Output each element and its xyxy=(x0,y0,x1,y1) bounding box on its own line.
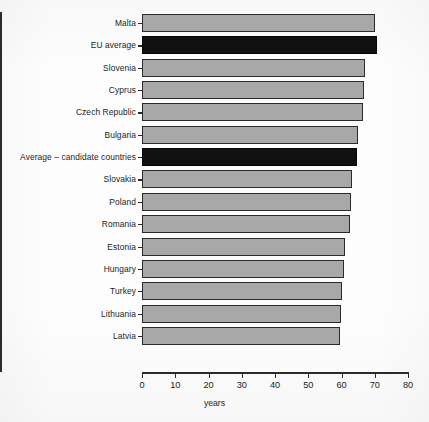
x-axis-tick-label: 10 xyxy=(163,380,187,390)
x-axis-tick-label: 70 xyxy=(363,380,387,390)
x-axis-tick-label: 20 xyxy=(197,380,221,390)
x-axis-tick xyxy=(375,373,376,378)
bar-chart: MaltaEU averageSloveniaCyprusCzech Repub… xyxy=(0,0,429,422)
x-axis-ticks-layer: 01020304050607080 xyxy=(0,0,429,422)
x-axis-tick xyxy=(408,373,409,378)
x-axis-tick-label: 50 xyxy=(296,380,320,390)
x-axis-tick xyxy=(342,373,343,378)
x-axis-title: years xyxy=(0,398,429,408)
x-axis-tick xyxy=(175,373,176,378)
x-axis-tick-label: 40 xyxy=(263,380,287,390)
x-axis-tick xyxy=(209,373,210,378)
x-axis-tick-label: 80 xyxy=(396,380,420,390)
x-axis-tick xyxy=(242,373,243,378)
x-axis-tick-label: 0 xyxy=(130,380,154,390)
x-axis-tick-label: 30 xyxy=(230,380,254,390)
x-axis-tick-label: 60 xyxy=(330,380,354,390)
x-axis-tick xyxy=(308,373,309,378)
x-axis-tick xyxy=(275,373,276,378)
x-axis-tick xyxy=(142,373,143,378)
